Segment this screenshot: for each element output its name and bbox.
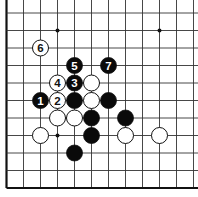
black-stone: [67, 93, 83, 109]
white-stone: 4: [50, 75, 66, 91]
white-stone: [50, 110, 66, 126]
move-number-label: 1: [37, 95, 44, 107]
black-stone: 3: [67, 75, 83, 91]
move-number-label: 3: [71, 77, 77, 89]
move-number-label: 4: [54, 77, 61, 89]
white-stone: [67, 110, 83, 126]
black-stone: [84, 110, 100, 126]
black-stone: 1: [33, 93, 49, 109]
white-stone: [152, 128, 168, 144]
move-number-label: 7: [105, 60, 111, 72]
black-stone: [67, 145, 83, 161]
white-stone: 6: [33, 40, 49, 56]
black-stone: [101, 93, 117, 109]
white-stone: [118, 128, 134, 144]
star-point: [56, 29, 60, 33]
move-number-label: 6: [37, 42, 43, 54]
black-stone: 5: [67, 58, 83, 74]
black-stone: 7: [101, 58, 117, 74]
move-number-label: 5: [71, 60, 78, 72]
star-point: [158, 29, 162, 33]
black-stone: [84, 128, 100, 144]
black-stone: [118, 110, 134, 126]
white-stone: [84, 75, 100, 91]
white-stone: [33, 128, 49, 144]
move-number-label: 2: [54, 95, 60, 107]
white-stone: 2: [50, 93, 66, 109]
white-stone: [84, 93, 100, 109]
star-point: [56, 134, 60, 138]
go-board: 1234567: [0, 0, 198, 197]
